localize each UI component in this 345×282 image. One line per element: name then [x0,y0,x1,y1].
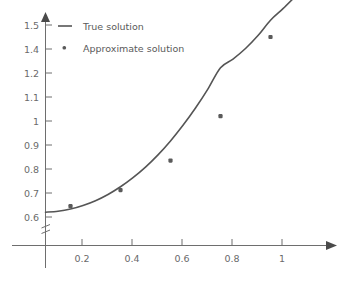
x-tick-label: 0.6 [174,253,189,264]
y-tick-label: 1.2 [24,68,39,79]
chart-legend: True solution Approximate solution [58,21,184,54]
y-axis-arrow-icon [41,12,50,22]
y-axis-ticks [46,25,53,217]
true-solution-curve [46,0,296,212]
data-point-marker [168,159,172,163]
x-axis-ticks [82,239,282,246]
y-tick-label: 1.5 [24,20,39,31]
y-tick-label: 1 [33,116,39,127]
x-tick-label: 0.8 [224,253,239,264]
y-tick-label: 0.6 [24,212,39,223]
x-tick-label: 0.2 [74,253,89,264]
data-point-marker [268,35,272,39]
x-axis-arrow-icon [326,241,337,250]
y-tick-label: 0.7 [24,188,39,199]
data-point-marker [218,114,222,118]
line-chart: 0.2 0.4 0.6 0.8 1 0.6 0.7 0.8 0.9 1 1.1 … [0,0,345,282]
legend-label-true-solution: True solution [82,21,144,32]
approximate-solution-markers [68,35,272,208]
x-tick-label: 1 [279,253,285,264]
y-tick-label: 0.9 [24,140,39,151]
y-tick-label: 0.8 [24,164,39,175]
data-point-marker [118,188,122,192]
legend-label-approximate-solution: Approximate solution [83,43,184,54]
legend-dot-swatch-icon [63,46,67,50]
x-tick-label: 0.4 [124,253,139,264]
y-tick-label: 1.1 [24,92,39,103]
y-tick-label: 1.4 [24,44,39,55]
data-point-marker [68,204,72,208]
chart-container: 0.2 0.4 0.6 0.8 1 0.6 0.7 0.8 0.9 1 1.1 … [0,0,345,282]
